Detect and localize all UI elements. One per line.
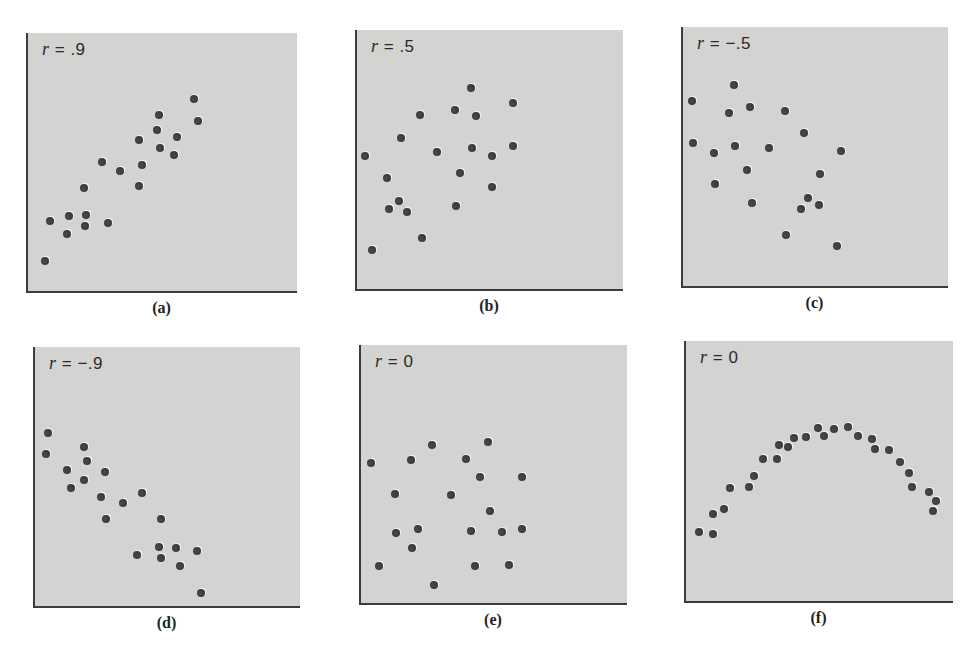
r-value: = 0: [708, 348, 739, 367]
data-point: [709, 510, 717, 518]
scatter-panel-f: r = 0: [684, 341, 953, 603]
data-point: [509, 99, 517, 107]
data-point: [908, 483, 916, 491]
data-point: [46, 217, 54, 225]
r-value: = .9: [50, 40, 86, 59]
data-point: [67, 484, 75, 492]
data-point: [395, 197, 403, 205]
data-point: [471, 562, 479, 570]
data-point: [80, 443, 88, 451]
data-point: [63, 230, 71, 238]
panel-caption-f: (f): [789, 609, 849, 627]
data-point: [784, 443, 792, 451]
data-point: [97, 493, 105, 501]
data-point: [868, 435, 876, 443]
data-point: [782, 231, 790, 239]
data-point: [44, 429, 52, 437]
data-point: [414, 525, 422, 533]
data-point: [428, 441, 436, 449]
data-point: [790, 434, 798, 442]
scatter-panel-e: r = 0: [359, 345, 627, 605]
data-point: [156, 144, 164, 152]
data-point: [416, 111, 424, 119]
data-point: [397, 134, 405, 142]
r-symbol: r: [42, 39, 50, 59]
correlation-label: r = .5: [371, 36, 415, 57]
data-point: [467, 84, 475, 92]
data-point: [403, 208, 411, 216]
panel-caption-e: (e): [463, 611, 523, 629]
data-point: [391, 490, 399, 498]
correlation-label: r = 0: [375, 351, 413, 372]
data-point: [102, 515, 110, 523]
data-point: [153, 126, 161, 134]
data-point: [451, 106, 459, 114]
data-point: [797, 205, 805, 213]
data-point: [65, 212, 73, 220]
data-point: [814, 424, 822, 432]
data-point: [804, 194, 812, 202]
data-point: [119, 499, 127, 507]
data-point: [689, 139, 697, 147]
data-point: [746, 103, 754, 111]
data-point: [368, 246, 376, 254]
data-point: [172, 544, 180, 552]
data-point: [709, 530, 717, 538]
data-point: [456, 169, 464, 177]
data-point: [193, 547, 201, 555]
data-point: [837, 147, 845, 155]
data-point: [925, 488, 933, 496]
data-point: [462, 455, 470, 463]
data-point: [80, 184, 88, 192]
data-point: [155, 111, 163, 119]
data-point: [896, 458, 904, 466]
data-point: [407, 456, 415, 464]
data-point: [815, 201, 823, 209]
data-point: [138, 489, 146, 497]
data-point: [695, 528, 703, 536]
data-point: [488, 183, 496, 191]
data-point: [759, 455, 767, 463]
data-point: [505, 561, 513, 569]
data-point: [472, 112, 480, 120]
data-point: [104, 219, 112, 227]
data-point: [385, 205, 393, 213]
data-point: [176, 562, 184, 570]
data-point: [157, 515, 165, 523]
data-point: [155, 543, 163, 551]
data-point: [173, 133, 181, 141]
data-point: [468, 144, 476, 152]
r-value: = 0: [383, 352, 414, 371]
data-point: [765, 144, 773, 152]
data-point: [830, 425, 838, 433]
data-point: [488, 152, 496, 160]
data-point: [929, 507, 937, 515]
data-point: [773, 455, 781, 463]
r-symbol: r: [375, 351, 383, 371]
data-point: [80, 476, 88, 484]
data-point: [197, 589, 205, 597]
data-point: [745, 483, 753, 491]
data-point: [194, 117, 202, 125]
data-point: [452, 202, 460, 210]
data-point: [820, 432, 828, 440]
data-point: [467, 527, 475, 535]
data-point: [375, 562, 383, 570]
data-point: [816, 170, 824, 178]
correlation-label: r = −.9: [49, 353, 103, 374]
data-point: [726, 484, 734, 492]
data-point: [885, 446, 893, 454]
data-point: [135, 182, 143, 190]
data-point: [730, 81, 738, 89]
data-point: [781, 107, 789, 115]
data-point: [133, 551, 141, 559]
data-point: [430, 581, 438, 589]
data-point: [408, 544, 416, 552]
r-value: = −.9: [57, 354, 103, 373]
scatter-panel-c: r = −.5: [681, 27, 948, 288]
correlation-label: r = .9: [42, 39, 86, 60]
data-point: [871, 445, 879, 453]
data-point: [932, 497, 940, 505]
data-point: [905, 469, 913, 477]
panel-caption-b: (b): [459, 297, 519, 315]
